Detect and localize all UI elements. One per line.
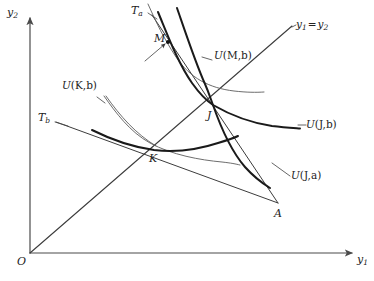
point-label-M: M	[154, 33, 165, 44]
leader-arrow-to-M	[145, 44, 165, 61]
origin-label: O	[17, 256, 26, 267]
x-axis-label-sub: 1	[363, 258, 368, 267]
curve-U-J-a	[177, 8, 270, 188]
point-label-K: K	[149, 153, 157, 164]
ray-label-equals: =	[307, 18, 318, 30]
leader-Tb	[55, 122, 68, 126]
ray-label-sub2: 2	[323, 23, 328, 32]
leader-U-J-a	[272, 163, 290, 176]
label-U-M-b: U(M,b)	[214, 50, 252, 61]
economics-indifference-curve-figure: y2 y1 O y1=y2 Ta Tb U(M,b) U(K,b) U(J,b)…	[0, 0, 374, 281]
label-Ta-sub: a	[138, 9, 142, 18]
label-U-J-b-args: (J,b)	[315, 118, 337, 130]
label-U-M-b-text: U	[214, 49, 223, 61]
x-axis-label: y1	[357, 254, 368, 265]
label-U-J-b: U(J,b)	[306, 119, 337, 130]
label-U-M-b-args: (M,b)	[223, 49, 252, 61]
leader-U-K-b	[97, 97, 105, 103]
curve-through-K	[92, 130, 238, 151]
ray-label: y1=y2	[296, 19, 328, 30]
label-U-J-a-args: (J,a)	[300, 169, 321, 181]
label-U-J-a: U(J,a)	[291, 170, 321, 181]
point-label-J: J	[207, 110, 211, 121]
y-axis-label-sub: 2	[13, 11, 18, 20]
diagram-svg	[0, 0, 374, 281]
leader-U-M-b	[202, 57, 212, 60]
label-U-J-a-text: U	[291, 169, 300, 181]
label-Ta: Ta	[131, 5, 143, 16]
label-U-K-b: U(K,b)	[62, 80, 97, 91]
label-U-K-b-args: (K,b)	[71, 79, 97, 91]
label-U-K-b-text: U	[62, 79, 71, 91]
curve-U-J-b	[158, 12, 300, 129]
point-label-A: A	[274, 208, 282, 219]
label-Tb-sub: b	[45, 116, 50, 125]
ray-label-sub1: 1	[302, 23, 307, 32]
equal-incomes-ray	[30, 26, 292, 253]
point-M-dot	[166, 40, 170, 44]
y-axis-label: y2	[7, 7, 18, 18]
label-U-J-b-text: U	[306, 118, 315, 130]
label-Tb: Tb	[38, 112, 50, 123]
